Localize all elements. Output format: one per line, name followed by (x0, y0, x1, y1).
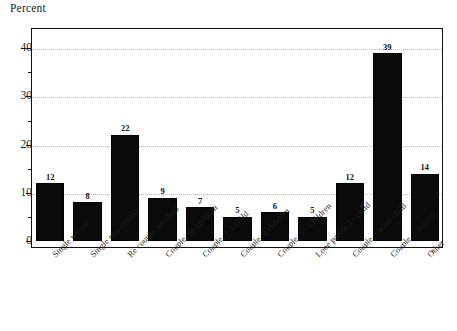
y-axis-title: Percent (10, 1, 46, 15)
y-tick-label: 0 (10, 235, 32, 247)
bar-chart: Percent 010203040 1282297565123914 Singl… (0, 0, 457, 331)
x-axis-labels: Single retiredSingle non-retiredRe coupl… (31, 248, 443, 331)
y-tick-label: 40 (10, 42, 32, 54)
bar-value-label: 8 (73, 192, 101, 201)
bar-slot: 12 (36, 28, 64, 248)
y-tick-label: 30 (10, 90, 32, 102)
bar-value-label: 12 (336, 173, 364, 182)
bar-value-label: 22 (111, 124, 139, 133)
bar (36, 183, 64, 241)
bar-value-label: 9 (148, 187, 176, 196)
bar-slot: 8 (73, 28, 101, 248)
bar-value-label: 39 (373, 43, 401, 52)
bar-value-label: 14 (411, 163, 439, 172)
y-tick-label: 20 (10, 139, 32, 151)
bar-value-label: 12 (36, 173, 64, 182)
y-tick-label: 10 (10, 187, 32, 199)
